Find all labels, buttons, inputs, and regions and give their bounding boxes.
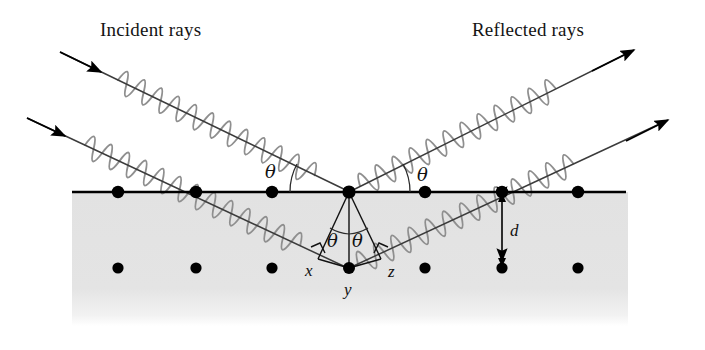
theta-label-surface-left: θ <box>265 163 276 181</box>
atom <box>266 186 278 198</box>
atom <box>112 186 124 198</box>
interplanar-spacing-label: d <box>510 222 519 239</box>
atom <box>419 186 431 198</box>
point-label-x: x <box>305 262 313 279</box>
arrow-incident-upper <box>60 52 101 72</box>
atom <box>496 262 507 273</box>
atom <box>342 185 355 198</box>
arrow-reflected-lower <box>626 120 668 141</box>
crystal-region <box>72 192 628 326</box>
point-label-y: y <box>344 281 352 298</box>
atom <box>419 262 430 273</box>
atom <box>190 186 202 198</box>
atom <box>266 262 277 273</box>
arrow-reflected-upper <box>592 50 634 71</box>
atom <box>112 262 123 273</box>
point-label-z: z <box>388 263 395 280</box>
reflected-rays-caption: Reflected rays <box>472 20 584 39</box>
atom <box>572 186 584 198</box>
theta-label-inner-left: θ <box>327 232 338 250</box>
arrow-group <box>27 50 668 141</box>
arrow-incident-lower <box>27 118 65 136</box>
atom <box>190 262 201 273</box>
bragg-diagram-svg <box>0 0 705 350</box>
ray-incident-upper <box>60 52 352 193</box>
atom <box>343 262 355 274</box>
atom <box>572 262 583 273</box>
ray-reflected-upper <box>347 51 632 193</box>
theta-label-inner-right: θ <box>352 232 363 250</box>
atom <box>496 186 508 198</box>
theta-label-surface-right: θ <box>417 166 428 184</box>
incident-rays-caption: Incident rays <box>100 20 201 39</box>
bragg-diffraction-figure: Incident rays Reflected rays θ θ θ θ x y… <box>0 0 705 350</box>
